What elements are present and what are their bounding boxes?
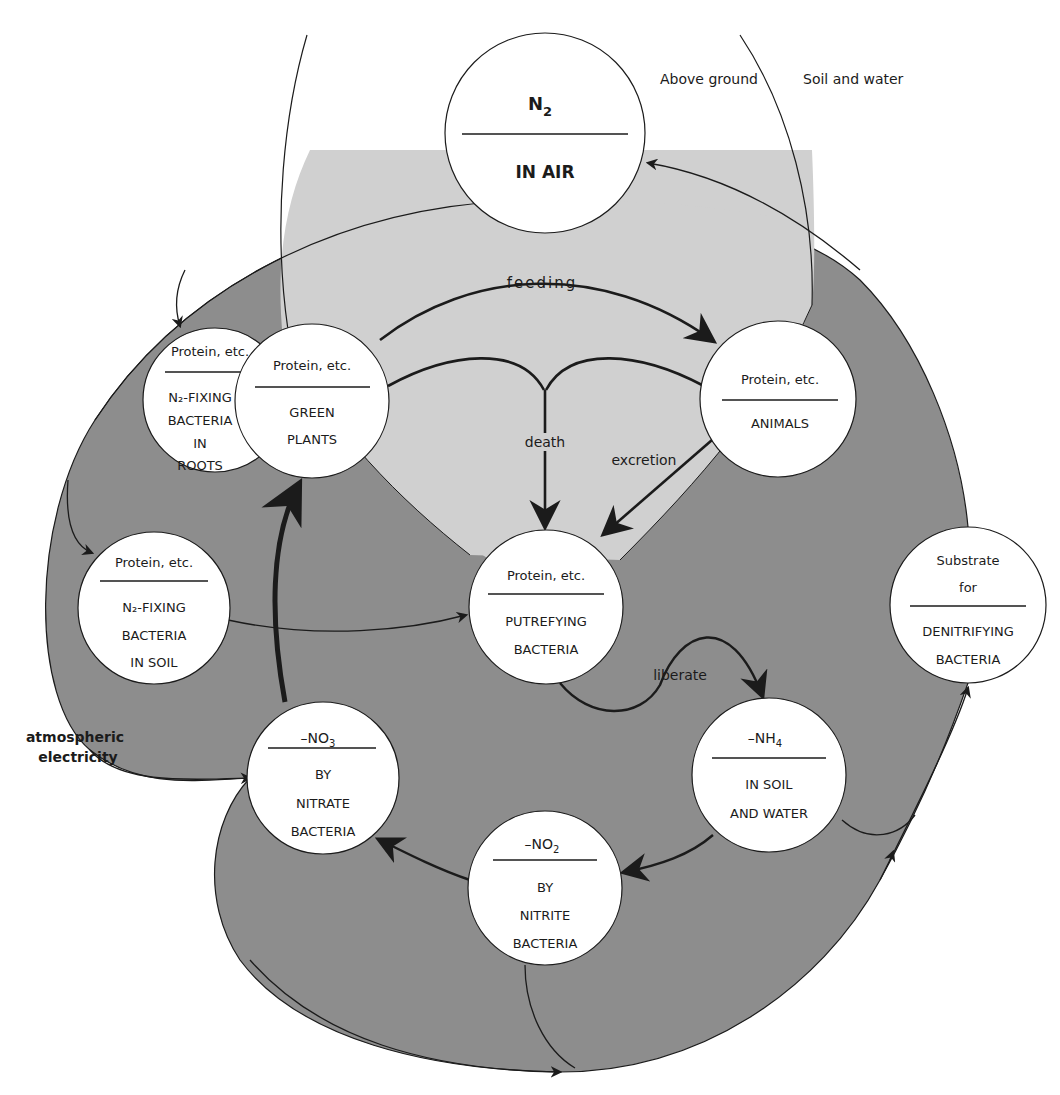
nitrogen-cycle-diagram: Above ground Soil and water feeding deat…: [0, 0, 1060, 1095]
label-atmospheric: atmospheric: [26, 729, 124, 745]
svg-text:Protein, etc.: Protein, etc.: [171, 344, 249, 359]
label-soil-and-water: Soil and water: [803, 71, 904, 87]
label-excretion: excretion: [612, 452, 677, 468]
label-above-ground: Above ground: [660, 71, 758, 87]
svg-text:DENITRIFYING: DENITRIFYING: [922, 624, 1014, 639]
svg-text:IN SOIL: IN SOIL: [130, 655, 178, 670]
svg-text:BACTERIA: BACTERIA: [514, 642, 579, 657]
svg-text:IN SOIL: IN SOIL: [745, 777, 793, 792]
svg-text:BACTERIA: BACTERIA: [168, 413, 233, 428]
node-nitrite-bacteria: –NO2 BY NITRITE BACTERIA: [468, 811, 622, 965]
svg-text:N₂-FIXING: N₂-FIXING: [122, 600, 185, 615]
node-soil-bacteria: Protein, etc. N₂-FIXING BACTERIA IN SOIL: [78, 532, 230, 684]
svg-text:N₂-FIXING: N₂-FIXING: [168, 390, 231, 405]
svg-text:IN AIR: IN AIR: [515, 162, 574, 182]
svg-text:BACTERIA: BACTERIA: [513, 936, 578, 951]
svg-text:BY: BY: [315, 767, 331, 782]
arrow-to-roots: [177, 270, 185, 326]
node-ammonium-soil-water: –NH4 IN SOIL AND WATER: [692, 698, 846, 852]
node-animals: Protein, etc. ANIMALS: [700, 321, 856, 477]
svg-text:BY: BY: [537, 880, 553, 895]
svg-text:Protein, etc.: Protein, etc.: [507, 568, 585, 583]
svg-text:Protein, etc.: Protein, etc.: [273, 358, 351, 373]
svg-text:BACTERIA: BACTERIA: [291, 824, 356, 839]
svg-text:ANIMALS: ANIMALS: [751, 416, 809, 431]
svg-text:GREEN: GREEN: [289, 405, 334, 420]
svg-text:Protein, etc.: Protein, etc.: [741, 372, 819, 387]
svg-text:ROOTS: ROOTS: [177, 458, 223, 473]
svg-text:PUTREFYING: PUTREFYING: [505, 614, 587, 629]
svg-text:BACTERIA: BACTERIA: [936, 652, 1001, 667]
node-green-plants: Protein, etc. GREEN PLANTS: [235, 324, 389, 478]
label-death: death: [525, 434, 565, 450]
svg-text:IN: IN: [193, 436, 207, 451]
svg-text:NITRITE: NITRITE: [520, 908, 571, 923]
svg-text:BACTERIA: BACTERIA: [122, 628, 187, 643]
node-nitrate-bacteria: –NO3 BY NITRATE BACTERIA: [247, 702, 399, 854]
label-feeding: feeding: [507, 274, 577, 292]
svg-text:for: for: [959, 580, 978, 595]
svg-text:NITRATE: NITRATE: [296, 796, 350, 811]
node-n2-in-air: N2 IN AIR: [445, 33, 645, 233]
label-liberate: liberate: [653, 667, 707, 683]
svg-text:AND WATER: AND WATER: [730, 806, 808, 821]
svg-text:PLANTS: PLANTS: [287, 432, 337, 447]
node-denitrifying-bacteria: Substrate for DENITRIFYING BACTERIA: [890, 527, 1046, 683]
node-putrefying-bacteria: Protein, etc. PUTREFYING BACTERIA: [469, 530, 623, 684]
svg-text:Protein, etc.: Protein, etc.: [115, 555, 193, 570]
label-electricity: electricity: [38, 749, 117, 765]
svg-text:Substrate: Substrate: [936, 553, 999, 568]
